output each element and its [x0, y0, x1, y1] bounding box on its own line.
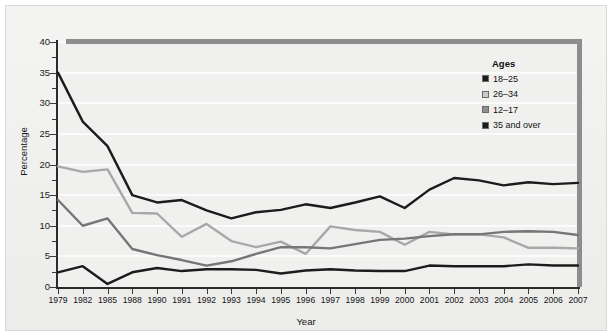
x-tick — [330, 289, 331, 294]
legend-title: Ages — [492, 58, 572, 69]
x-tick — [157, 289, 158, 294]
legend-entry: 12–17 — [482, 104, 572, 115]
legend-entry: 35 and over — [482, 120, 572, 131]
legend-entry-label: 35 and over — [493, 120, 541, 130]
legend-entry-label: 18–25 — [493, 74, 518, 84]
x-tick — [380, 289, 381, 294]
series-line — [58, 264, 578, 284]
y-tick-label: 40 — [10, 37, 50, 47]
legend-swatch-icon — [482, 122, 489, 129]
x-axis-line — [56, 287, 580, 289]
x-axis-title: Year — [0, 316, 612, 327]
x-tick — [553, 289, 554, 294]
legend-entry: 26–34 — [482, 89, 572, 100]
y-tick-label: 20 — [10, 160, 50, 170]
legend-entry: 18–25 — [482, 73, 572, 84]
x-tick — [306, 289, 307, 294]
y-axis-title: Percentage — [18, 107, 29, 197]
x-tick — [58, 289, 59, 294]
legend-swatch-icon — [482, 91, 489, 98]
y-tick-label: 5 — [10, 251, 50, 261]
x-tick — [256, 289, 257, 294]
x-tick — [207, 289, 208, 294]
x-tick — [182, 289, 183, 294]
series-line — [58, 166, 578, 254]
legend-entry-label: 26–34 — [493, 89, 518, 99]
x-tick — [132, 289, 133, 294]
legend-swatch-icon — [482, 106, 489, 113]
y-tick-label: 30 — [10, 98, 50, 108]
x-tick — [405, 289, 406, 294]
x-tick — [108, 289, 109, 294]
x-tick — [528, 289, 529, 294]
x-tick — [83, 289, 84, 294]
legend-entry-label: 12–17 — [493, 105, 518, 115]
y-tick-label: 0 — [10, 282, 50, 292]
x-tick — [479, 289, 480, 294]
chart-page: Percentage 0510152025303540 197919821985… — [0, 0, 612, 336]
x-tick — [504, 289, 505, 294]
x-tick — [429, 289, 430, 294]
series-line — [58, 200, 578, 266]
x-tick — [578, 289, 579, 294]
legend-entries: 18–2526–3412–1735 and over — [482, 73, 572, 131]
legend: Ages 18–2526–3412–1735 and over — [482, 58, 572, 135]
x-tick — [454, 289, 455, 294]
y-tick-label: 25 — [10, 129, 50, 139]
y-tick-label: 35 — [10, 68, 50, 78]
y-tick-label: 10 — [10, 221, 50, 231]
x-tick — [281, 289, 282, 294]
x-tick — [231, 289, 232, 294]
x-tick — [355, 289, 356, 294]
y-tick-label: 15 — [10, 190, 50, 200]
legend-swatch-icon — [482, 75, 489, 82]
x-tick-label: 2007 — [558, 296, 598, 305]
